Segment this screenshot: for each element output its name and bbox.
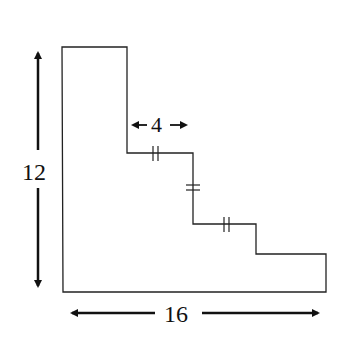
staircase-diagram [0,0,345,339]
height-label: 12 [22,160,46,184]
width-label: 16 [164,302,188,326]
step-label: 4 [151,114,162,136]
congruence-marks [153,146,229,232]
staircase-outline [62,47,326,292]
